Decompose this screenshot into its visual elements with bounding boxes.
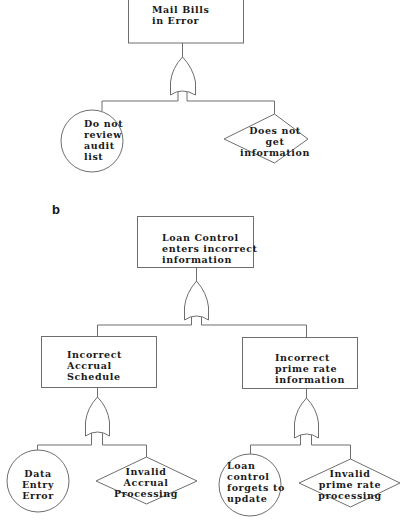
label-line: list xyxy=(84,151,123,162)
label-line: update xyxy=(227,493,285,504)
panel-label-b: b xyxy=(52,202,60,217)
label-line: Do not xyxy=(84,118,123,129)
label-line: in Error xyxy=(152,15,209,26)
label-line: Entry xyxy=(14,479,62,490)
basic-event-label-b1a: DataEntryError xyxy=(14,468,62,501)
label-line: enters incorrect xyxy=(162,243,258,254)
label-line: Does not xyxy=(240,125,310,136)
label-line: Loan xyxy=(227,460,285,471)
or-gate-icon-b xyxy=(185,281,209,320)
basic-event-label-b2a: Loancontrolforgets toupdate xyxy=(227,460,285,504)
undeveloped-event-label-a2: Does notgetinformation xyxy=(240,125,310,158)
or-gate-icon-b2 xyxy=(295,398,319,438)
basic-event-label-a1: Do notreviewauditlist xyxy=(84,118,123,162)
or-gate-icon-b1 xyxy=(86,397,110,436)
label-line: Incorrect xyxy=(275,352,345,363)
intermediate-label-b2: Incorrectprime rateinformation xyxy=(275,352,345,385)
label-line: processing xyxy=(308,490,392,501)
label-line: Invalid xyxy=(110,466,182,477)
label-line: Loan Control xyxy=(162,232,258,243)
label-line: Mail Bills xyxy=(152,4,209,15)
label-line: Accrual xyxy=(110,477,182,488)
label-line: information xyxy=(162,254,258,265)
label-line: control xyxy=(227,471,285,482)
label-line: Incorrect xyxy=(67,349,122,360)
label-line: review xyxy=(84,129,123,140)
label-line: audit xyxy=(84,140,123,151)
top-event-label-a: Mail Billsin Error xyxy=(152,4,209,26)
label-line: Schedule xyxy=(67,371,122,382)
label-line: Accrual xyxy=(67,360,122,371)
undeveloped-event-label-b1b: InvalidAccrualProcessing xyxy=(110,466,182,499)
label-line: information xyxy=(240,147,310,158)
label-line: Processing xyxy=(110,488,182,499)
label-line: information xyxy=(275,374,345,385)
undeveloped-event-label-b2b: Invalidprime rateprocessing xyxy=(308,468,392,501)
intermediate-label-b1: IncorrectAccrualSchedule xyxy=(67,349,122,382)
label-line: Invalid xyxy=(308,468,392,479)
label-line: Error xyxy=(14,490,62,501)
label-line: prime rate xyxy=(308,479,392,490)
label-line: prime rate xyxy=(275,363,345,374)
label-line: forgets to xyxy=(227,482,285,493)
top-event-label-b: Loan Controlenters incorrectinformation xyxy=(162,232,258,265)
or-gate-icon-a xyxy=(171,57,196,95)
label-line: get xyxy=(240,136,310,147)
fault-tree-figure: b Mail Billsin Error Do notreviewauditli… xyxy=(0,0,407,524)
label-line: Data xyxy=(14,468,62,479)
